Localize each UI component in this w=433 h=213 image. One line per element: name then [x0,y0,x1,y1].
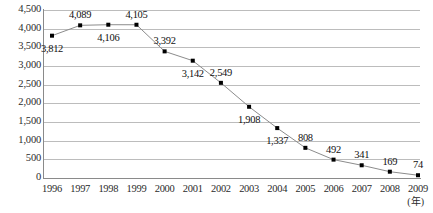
y-axis-tick: 3,500 [1,41,41,52]
y-axis-tick: 500 [1,153,41,164]
y-axis-tick: 4,000 [1,23,41,34]
data-point-label: 1,908 [238,114,260,125]
y-axis-tick: 4,500 [1,4,41,15]
data-point-label: 3,142 [182,68,204,79]
x-axis-unit-label: (年) [407,196,424,207]
x-axis-tick: 2009 [401,183,433,194]
x-axis-tick-labels: 1996199719981999200020012002200320042005… [44,183,420,197]
data-point-label: 169 [382,156,397,167]
gridline [44,122,420,123]
data-point-label: 74 [413,159,423,170]
data-point-label: 341 [354,149,369,160]
y-axis-tick: 2,000 [1,97,41,108]
y-axis-tick: 2,500 [1,79,41,90]
gridline [44,10,420,11]
data-point-label: 808 [298,132,313,143]
data-point-label: 492 [326,144,341,155]
y-axis-tick: 3,000 [1,60,41,71]
x-axis-line [43,178,421,179]
data-point-label: 1,337 [266,135,288,146]
y-axis-tick-labels: 05001,0001,5002,0002,5003,0003,5004,0004… [0,0,41,213]
gridline [44,141,420,142]
y-axis-tick: 1,500 [1,116,41,127]
gridline [44,29,420,30]
gridline [44,85,420,86]
data-point-label: 2,549 [210,67,232,78]
data-point-label: 4,089 [69,9,91,20]
data-point-label: 4,106 [97,32,119,43]
data-point-label: 3,812 [41,43,63,54]
gridline [44,66,420,67]
y-axis-tick: 1,000 [1,135,41,146]
data-point-label: 4,105 [125,9,147,20]
data-point-label: 3,392 [154,35,176,46]
gridline [44,103,420,104]
y-axis-tick: 0 [1,172,41,183]
y-axis-line [43,9,44,179]
gridline [44,47,420,48]
